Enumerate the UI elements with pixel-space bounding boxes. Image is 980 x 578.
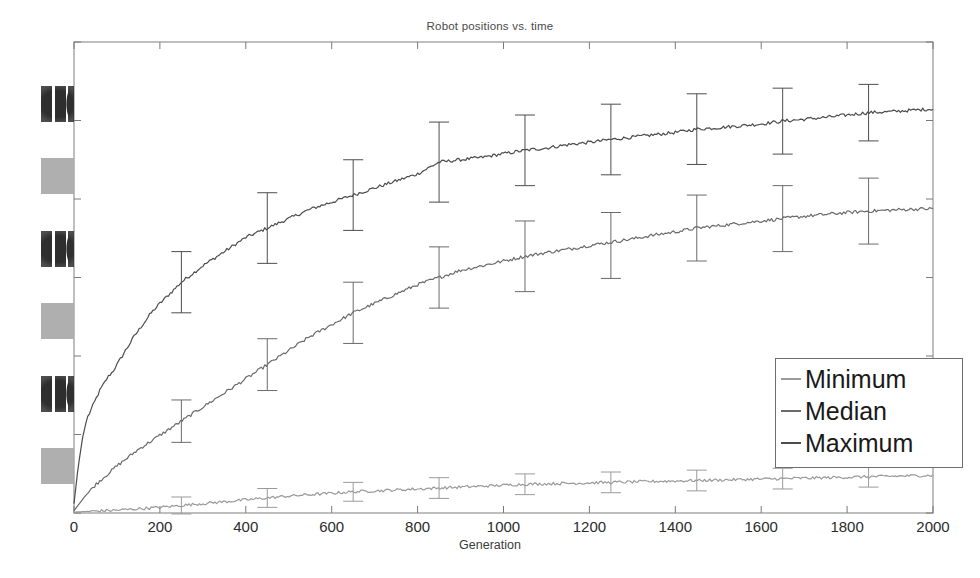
xtick-label: 200 (147, 518, 172, 535)
ytick-label-artifact-3 (41, 231, 74, 267)
legend-item-median[interactable]: Median (781, 395, 953, 427)
ytick-label-artifact-1 (41, 86, 74, 122)
xtick-label: 1600 (745, 518, 778, 535)
legend-item-maximum[interactable]: Maximum (781, 427, 953, 459)
xtick-label: 600 (319, 518, 344, 535)
xtick-label: 1000 (487, 518, 520, 535)
legend-line-swatch (781, 442, 801, 444)
figure-canvas: Robot positions vs. time 020040060080010… (0, 0, 980, 578)
xtick-label: 2000 (916, 518, 949, 535)
xtick-label: 1400 (659, 518, 692, 535)
xtick-label: 800 (405, 518, 430, 535)
legend-line-swatch (781, 378, 801, 380)
plot-area (0, 0, 980, 578)
ytick-label-artifact-6 (41, 448, 74, 484)
ytick-label-artifact-4 (41, 303, 74, 339)
legend-line-swatch (781, 410, 801, 412)
ytick-label-artifact-2 (41, 158, 74, 194)
legend-label: Median (805, 399, 887, 424)
legend-label: Minimum (805, 367, 906, 392)
xtick-label: 0 (70, 518, 78, 535)
ytick-label-artifact-5 (41, 376, 74, 412)
legend-label: Maximum (805, 431, 913, 456)
xtick-label: 1200 (573, 518, 606, 535)
legend-item-minimum[interactable]: Minimum (781, 363, 953, 395)
xtick-label: 400 (233, 518, 258, 535)
xtick-label: 1800 (830, 518, 863, 535)
legend[interactable]: MinimumMedianMaximum (775, 358, 963, 468)
x-axis-label: Generation (0, 538, 980, 552)
